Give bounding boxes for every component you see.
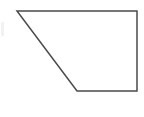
- figure-canvas: [0, 0, 144, 117]
- left-edge-smudge: [1, 22, 4, 36]
- figure-svg: [0, 0, 144, 117]
